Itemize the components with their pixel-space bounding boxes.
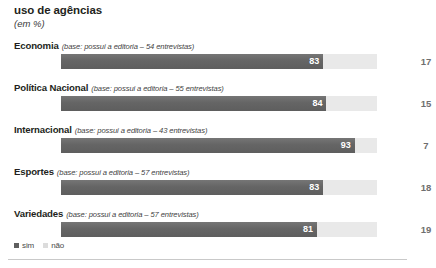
- chart-header: uso de agências (em %): [0, 0, 415, 30]
- category-base-note: (base: possui a editoria – 57 entrevista…: [57, 168, 190, 177]
- bar-track-nao: 84: [61, 96, 377, 111]
- bar-area: 83 18: [61, 180, 415, 195]
- legend-item-nao: não: [43, 241, 64, 250]
- row-label: Economia(base: possui a editoria – 54 en…: [0, 38, 415, 51]
- bar-value-sim: 83: [309, 54, 319, 69]
- category-base-note: (base: possui a editoria – 54 entrevista…: [62, 42, 195, 51]
- bar-fill-sim: 83: [61, 180, 323, 195]
- bar-fill-sim: 81: [61, 222, 317, 237]
- legend-swatch-icon-nao: [43, 243, 48, 248]
- row-label: Internacional(base: possui a editoria – …: [0, 122, 415, 135]
- category-name: Internacional: [14, 124, 72, 135]
- chart-rows: Economia(base: possui a editoria – 54 en…: [0, 38, 415, 248]
- chart-legend: sim não: [14, 241, 64, 250]
- footer-divider: [8, 259, 407, 260]
- category-name: Variedades: [14, 208, 63, 219]
- legend-label-nao: não: [51, 241, 64, 250]
- bar-value-sim: 84: [312, 96, 322, 111]
- chart-row: Esportes(base: possui a editoria – 57 en…: [0, 164, 415, 206]
- bar-value-nao: 15: [386, 96, 436, 111]
- chart-unit-label: (em %): [14, 18, 415, 30]
- legend-label-sim: sim: [22, 241, 34, 250]
- bar-area: 84 15: [61, 96, 415, 111]
- bar-value-nao: 19: [386, 222, 436, 237]
- legend-item-sim: sim: [14, 241, 34, 250]
- bar-value-nao: 18: [386, 180, 436, 195]
- bar-track-nao: 93: [61, 138, 377, 153]
- page-title: uso de agências: [14, 4, 415, 17]
- bar-area: 83 17: [61, 54, 415, 69]
- category-base-note: (base: possui a editoria – 55 entrevista…: [91, 84, 224, 93]
- bar-value-sim: 81: [303, 222, 313, 237]
- category-name: Esportes: [14, 166, 54, 177]
- bar-fill-sim: 84: [61, 96, 326, 111]
- bar-track-nao: 83: [61, 180, 377, 195]
- bar-area: 81 19: [61, 222, 415, 237]
- chart-row: Economia(base: possui a editoria – 54 en…: [0, 38, 415, 80]
- bar-value-nao: 17: [386, 54, 436, 69]
- bar-track-nao: 81: [61, 222, 377, 237]
- bar-value-sim: 93: [341, 138, 351, 153]
- bar-fill-sim: 93: [61, 138, 355, 153]
- bar-value-sim: 83: [309, 180, 319, 195]
- category-name: Economia: [14, 40, 59, 51]
- bar-value-nao: 7: [386, 138, 436, 153]
- category-base-note: (base: possui a editoria – 57 entrevista…: [66, 210, 199, 219]
- row-label: Política Nacional(base: possui a editori…: [0, 80, 415, 93]
- legend-swatch-icon-sim: [14, 243, 19, 248]
- bar-fill-sim: 83: [61, 54, 323, 69]
- chart-row: Internacional(base: possui a editoria – …: [0, 122, 415, 164]
- category-base-note: (base: possui a editoria – 43 entrevista…: [75, 126, 208, 135]
- bar-track-nao: 83: [61, 54, 377, 69]
- bar-area: 93 7: [61, 138, 415, 153]
- row-label: Variedades(base: possui a editoria – 57 …: [0, 206, 415, 219]
- row-label: Esportes(base: possui a editoria – 57 en…: [0, 164, 415, 177]
- category-name: Política Nacional: [14, 82, 88, 93]
- chart-row: Política Nacional(base: possui a editori…: [0, 80, 415, 122]
